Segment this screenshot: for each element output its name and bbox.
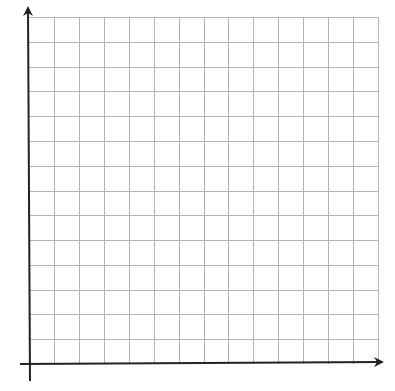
grid-lines [29, 17, 379, 364]
grid-plot [0, 0, 395, 391]
y-axis [28, 8, 30, 381]
coordinate-grid-figure [0, 0, 395, 391]
x-axis [20, 362, 382, 364]
